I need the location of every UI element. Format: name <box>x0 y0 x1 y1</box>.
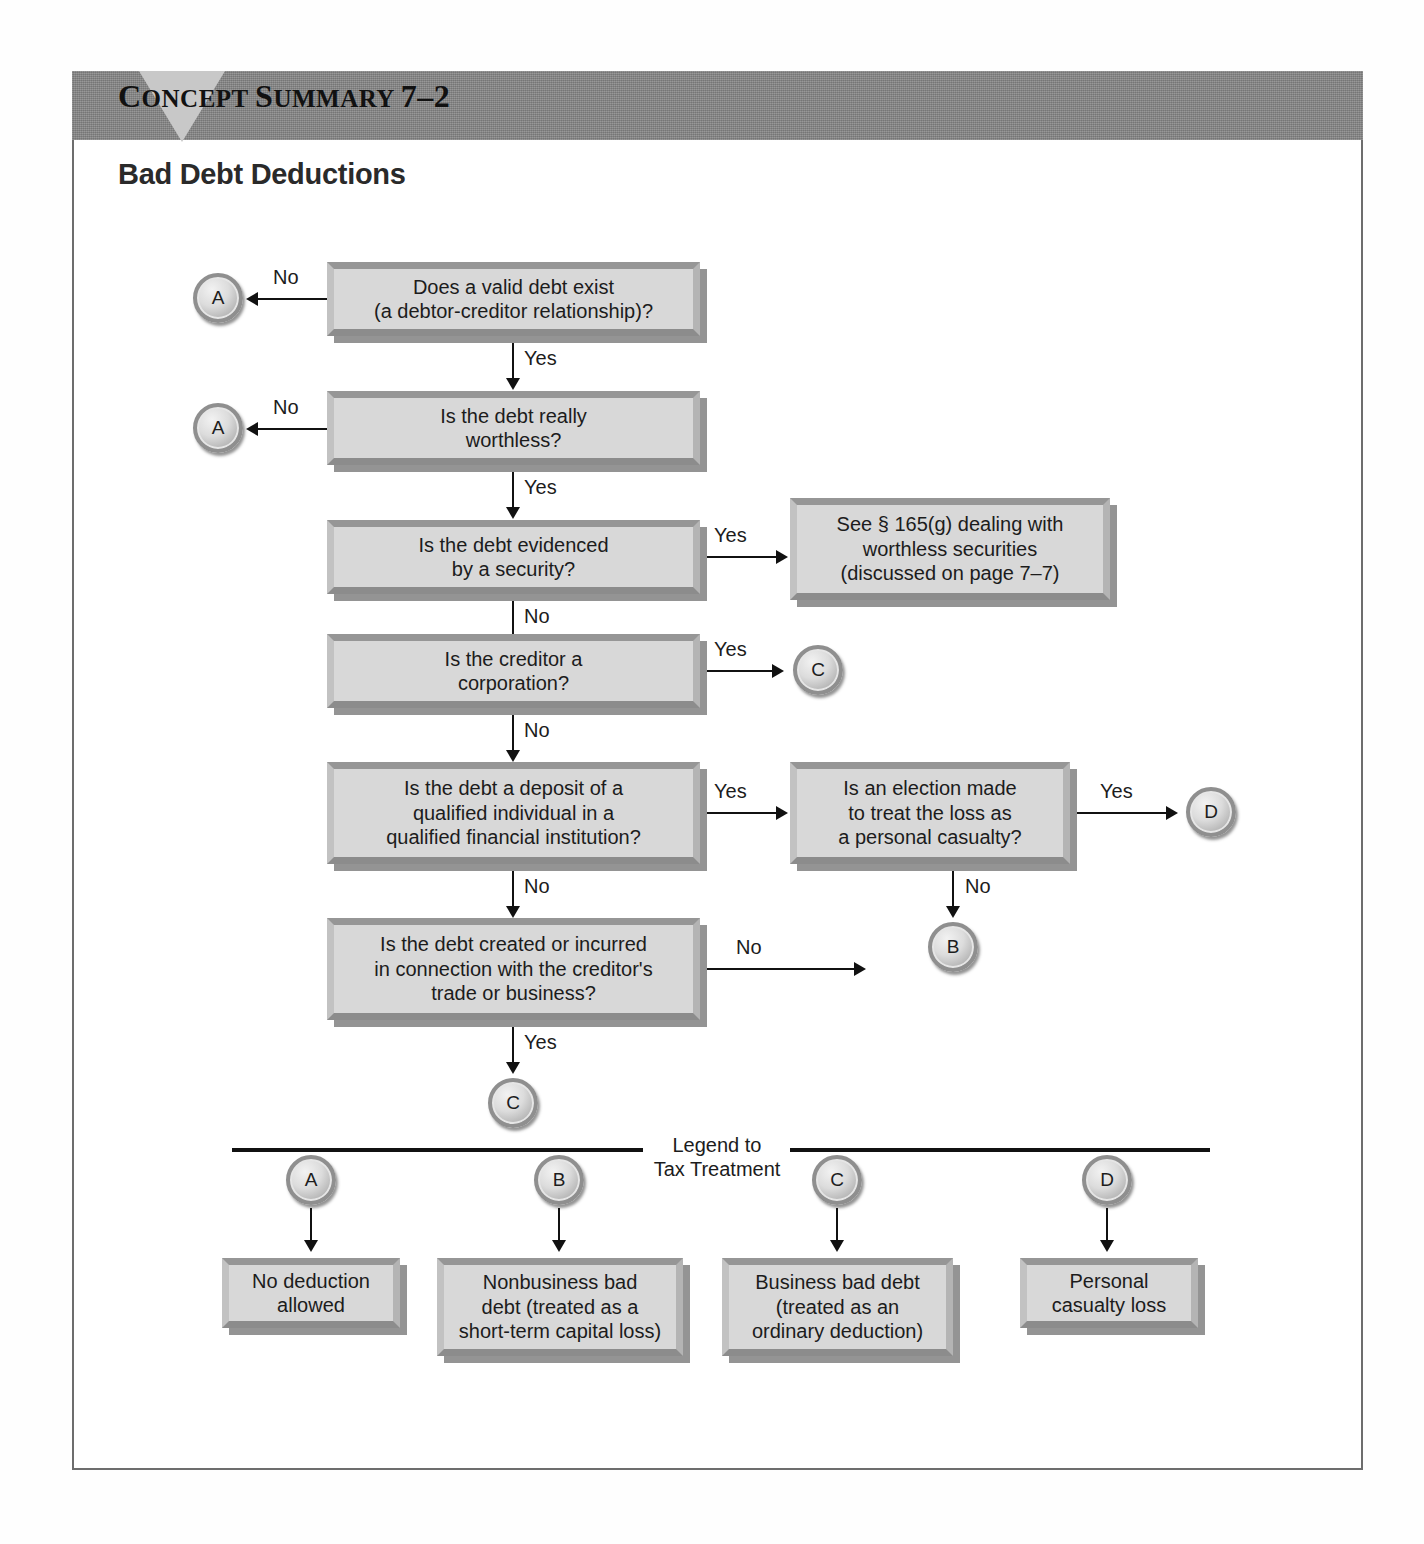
r1-line2: worthless securities <box>803 537 1097 561</box>
edge-q3-yes <box>707 556 779 558</box>
legend-edge-c-arrowhead <box>830 1240 844 1252</box>
edge-q2-no-arrowhead <box>246 422 258 436</box>
q6-line2: to treat the loss as <box>803 801 1057 825</box>
q1-line2: (a debtor-creditor relationship)? <box>340 299 687 323</box>
page-title: Bad Debt Deductions <box>118 158 406 191</box>
legend-title-line1: Legend to <box>648 1133 786 1157</box>
edge-q7-no-arrowhead <box>854 962 866 976</box>
edge-label-no-2: No <box>273 396 299 419</box>
banner-title-number: 7–2 <box>401 78 451 114</box>
edge-q4-yes-arrowhead <box>772 664 784 678</box>
legend-box-personal-casualty-loss: Personal casualty loss <box>1020 1258 1198 1328</box>
q7-line3: trade or business? <box>340 981 687 1005</box>
banner-title-concept-rest: ONCEPT <box>142 85 255 112</box>
edge-label-yes-7: Yes <box>524 1031 557 1054</box>
edge-label-no-4: No <box>524 719 550 742</box>
decision-box-trade-or-business: Is the debt created or incurred in conne… <box>327 918 700 1020</box>
edge-q4-no <box>512 715 514 753</box>
q2-line2: worthless? <box>340 428 687 452</box>
banner-title: CONCEPT SUMMARY 7–2 <box>118 78 450 115</box>
q6-line3: a personal casualty? <box>803 825 1057 849</box>
connector-b-1: B <box>928 922 978 972</box>
legend-box-business-bad-debt: Business bad debt (treated as an ordinar… <box>722 1258 953 1356</box>
edge-label-yes-6: Yes <box>1100 780 1133 803</box>
edge-q2-no <box>258 428 327 430</box>
edge-q6-no-arrowhead <box>946 906 960 918</box>
legend-b-line1: Nonbusiness bad <box>450 1270 670 1294</box>
legend-title: Legend to Tax Treatment <box>648 1133 786 1182</box>
q1-line1: Does a valid debt exist <box>340 275 687 299</box>
edge-label-yes-1: Yes <box>524 347 557 370</box>
edge-q7-yes <box>512 1027 514 1065</box>
decision-box-really-worthless: Is the debt really worthless? <box>327 391 700 465</box>
edge-label-no-1: No <box>273 266 299 289</box>
legend-a-line1: No deduction <box>235 1269 387 1293</box>
edge-q1-yes-arrowhead <box>506 378 520 390</box>
edge-q2-yes-arrowhead <box>506 507 520 519</box>
legend-connector-c: C <box>812 1155 862 1205</box>
r1-line1: See § 165(g) dealing with <box>803 512 1097 536</box>
legend-b-line3: short-term capital loss) <box>450 1319 670 1343</box>
q5-line2: qualified individual in a <box>340 801 687 825</box>
decision-box-creditor-corporation: Is the creditor a corporation? <box>327 634 700 708</box>
connector-c-1: C <box>793 645 843 695</box>
legend-connector-a-label: A <box>305 1169 318 1191</box>
edge-label-no-5: No <box>524 875 550 898</box>
edge-q5-no-arrowhead <box>506 906 520 918</box>
edge-q6-no <box>952 871 954 909</box>
legend-edge-b-arrowhead <box>552 1240 566 1252</box>
edge-q1-no-arrowhead <box>246 292 258 306</box>
decision-box-valid-debt: Does a valid debt exist (a debtor-credit… <box>327 262 700 336</box>
edge-label-yes-3: Yes <box>714 524 747 547</box>
q5-line1: Is the debt a deposit of a <box>340 776 687 800</box>
q7-line2: in connection with the creditor's <box>340 957 687 981</box>
connector-a-2-label: A <box>212 417 225 439</box>
legend-c-line3: ordinary deduction) <box>735 1319 940 1343</box>
connector-a-1-label: A <box>212 287 225 309</box>
connector-a-2: A <box>193 403 243 453</box>
edge-q2-yes <box>512 472 514 510</box>
connector-c-2-label: C <box>506 1092 520 1114</box>
edge-q6-yes-arrowhead <box>1166 806 1178 820</box>
q3-line2: by a security? <box>340 557 687 581</box>
legend-a-line2: allowed <box>235 1293 387 1317</box>
decision-box-personal-casualty-election: Is an election made to treat the loss as… <box>790 762 1070 864</box>
legend-connector-b-label: B <box>553 1169 566 1191</box>
legend-rule-left <box>232 1148 643 1152</box>
edge-q7-no <box>707 968 857 970</box>
result-box-worthless-securities: See § 165(g) dealing with worthless secu… <box>790 498 1110 600</box>
edge-q5-no <box>512 871 514 909</box>
connector-b-1-label: B <box>947 936 960 958</box>
decision-box-qualified-deposit: Is the debt a deposit of a qualified ind… <box>327 762 700 864</box>
edge-q5-yes-arrowhead <box>776 806 788 820</box>
q3-line1: Is the debt evidenced <box>340 533 687 557</box>
edge-q3-yes-arrowhead <box>776 550 788 564</box>
legend-edge-d <box>1106 1208 1108 1242</box>
edge-q7-yes-arrowhead <box>506 1062 520 1074</box>
legend-title-line2: Tax Treatment <box>648 1157 786 1181</box>
edge-label-yes-4: Yes <box>714 638 747 661</box>
connector-c-1-label: C <box>811 659 825 681</box>
edge-q5-yes <box>707 812 779 814</box>
edge-q4-yes <box>707 670 775 672</box>
decision-box-evidenced-by-security: Is the debt evidenced by a security? <box>327 520 700 594</box>
q4-line1: Is the creditor a <box>340 647 687 671</box>
legend-connector-d-label: D <box>1100 1169 1114 1191</box>
edge-q6-yes <box>1077 812 1169 814</box>
connector-d-1: D <box>1186 787 1236 837</box>
q5-line3: qualified financial institution? <box>340 825 687 849</box>
edge-label-yes-5: Yes <box>714 780 747 803</box>
legend-edge-c <box>836 1208 838 1242</box>
legend-connector-b: B <box>534 1155 584 1205</box>
legend-box-nonbusiness-bad-debt: Nonbusiness bad debt (treated as a short… <box>437 1258 683 1356</box>
q6-line1: Is an election made <box>803 776 1057 800</box>
edge-label-yes-2: Yes <box>524 476 557 499</box>
banner-title-summary-rest: UMMARY <box>273 85 400 112</box>
legend-edge-d-arrowhead <box>1100 1240 1114 1252</box>
legend-box-no-deduction: No deduction allowed <box>222 1258 400 1328</box>
legend-edge-b <box>558 1208 560 1242</box>
legend-edge-a-arrowhead <box>304 1240 318 1252</box>
connector-d-1-label: D <box>1204 801 1218 823</box>
banner-title-s: S <box>255 78 273 114</box>
connector-a-1: A <box>193 273 243 323</box>
